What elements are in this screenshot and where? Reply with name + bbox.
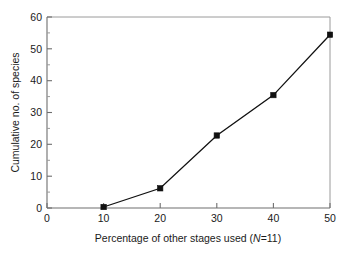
x-axis-title: Percentage of other stages used (N=11)	[95, 232, 281, 244]
y-tick-label-50: 50	[30, 43, 42, 55]
x-axis-title-suffix: =11)	[261, 232, 282, 244]
x-tick-label-0: 0	[44, 212, 50, 224]
y-tick-label-30: 30	[30, 106, 42, 118]
x-axis-title-prefix: Percentage of other stages used (	[95, 232, 254, 244]
x-axis-tick-labels: 0 10 20 30 40 50	[44, 212, 336, 224]
x-tick-label-30: 30	[211, 212, 223, 224]
y-axis-major-ticks	[47, 17, 52, 208]
y-tick-label-0: 0	[36, 202, 42, 214]
data-point-10	[101, 204, 106, 209]
x-tick-label-20: 20	[154, 212, 166, 224]
line-chart-canvas: 0 10 20 30 40 50 60 0 10 20 30 40 50 Per…	[0, 0, 347, 254]
y-tick-label-60: 60	[30, 11, 42, 23]
frame-top-right-border	[47, 17, 330, 208]
data-point-30	[214, 133, 219, 138]
data-point-40	[271, 92, 276, 97]
y-axis-tick-labels: 0 10 20 30 40 50 60	[30, 11, 42, 214]
y-tick-label-20: 20	[30, 138, 42, 150]
y-tick-label-40: 40	[30, 74, 42, 86]
chart-figure: 0 10 20 30 40 50 60 0 10 20 30 40 50 Per…	[0, 0, 347, 254]
y-tick-label-10: 10	[30, 170, 42, 182]
plot-frame	[47, 17, 330, 208]
y-axis-title: Cumulative no. of species	[9, 52, 21, 172]
series-line	[104, 35, 330, 207]
data-point-50	[327, 32, 332, 37]
x-tick-label-10: 10	[98, 212, 110, 224]
x-axis-major-ticks	[47, 203, 330, 208]
data-series-cumulative-species	[101, 32, 333, 210]
x-tick-label-40: 40	[268, 212, 280, 224]
x-tick-label-50: 50	[324, 212, 336, 224]
data-point-20	[158, 186, 163, 191]
axes	[47, 17, 330, 208]
